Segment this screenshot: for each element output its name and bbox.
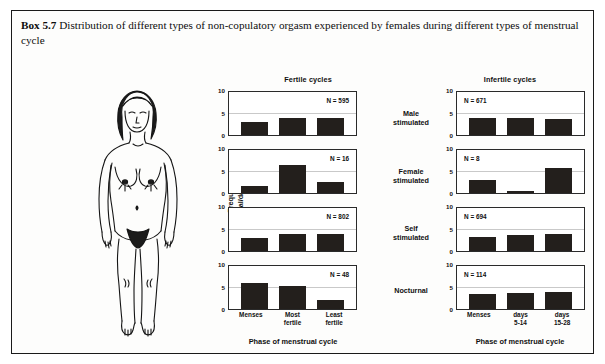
caption-label: Box 5.7 bbox=[21, 19, 56, 31]
row-label-nocturnal: Nocturnal bbox=[380, 286, 442, 295]
x-tick-label: Menses bbox=[233, 311, 269, 319]
y-tick-label: 5 bbox=[442, 169, 453, 175]
caption-text: Distribution of different types of non-c… bbox=[21, 19, 579, 46]
x-tick-label-line: days bbox=[502, 311, 538, 319]
row-label-line2: stimulated bbox=[380, 118, 442, 127]
plot-area: N = 671 bbox=[456, 91, 585, 136]
y-tick-label: 10 bbox=[214, 88, 225, 94]
panel-infertile-nocturnal: N = 1140510 bbox=[442, 265, 585, 310]
y-tick-label: 5 bbox=[214, 169, 225, 175]
row-label-line1: Self bbox=[380, 224, 442, 233]
bar bbox=[545, 234, 572, 251]
row-label-line1: Nocturnal bbox=[380, 286, 442, 295]
plot-area: N = 16 bbox=[228, 149, 357, 194]
x-tick-label-line: days bbox=[544, 311, 580, 319]
bar bbox=[507, 235, 534, 251]
y-tick-label: 5 bbox=[214, 285, 225, 291]
plot-area: N = 802 bbox=[228, 207, 357, 252]
y-tick-label: 10 bbox=[442, 146, 453, 152]
row-label-male-stimulated: Male stimulated bbox=[380, 109, 442, 128]
y-tick-label: 0 bbox=[214, 307, 225, 313]
y-tick-label: 0 bbox=[442, 249, 453, 255]
bar-group bbox=[457, 150, 584, 193]
bar bbox=[545, 119, 572, 135]
panel-infertile-male-stimulated: N = 6710510 bbox=[442, 91, 585, 136]
x-tick-labels-fertile: MensesMostfertileLeastfertile bbox=[228, 311, 357, 335]
bar bbox=[241, 283, 268, 309]
y-tick-label: 10 bbox=[214, 204, 225, 210]
row-label-self-stimulated: Self stimulated bbox=[380, 224, 442, 243]
bar bbox=[507, 293, 534, 309]
column-header-infertile: Infertile cycles bbox=[430, 75, 590, 84]
bar bbox=[241, 186, 268, 193]
panel-infertile-female-stimulated: N = 80510 bbox=[442, 149, 585, 194]
bar bbox=[545, 168, 572, 193]
x-tick-label: Menses bbox=[461, 311, 497, 319]
bar bbox=[279, 118, 306, 135]
plot-area: N = 595 bbox=[228, 91, 357, 136]
plot-area: N = 48 bbox=[228, 265, 357, 310]
x-tick-label-line: 15-28 bbox=[544, 319, 580, 327]
bar bbox=[507, 118, 534, 135]
bar-group bbox=[457, 208, 584, 251]
y-tick-label: 5 bbox=[442, 285, 453, 291]
bar bbox=[507, 191, 534, 193]
y-tick-label: 0 bbox=[214, 249, 225, 255]
y-tick-label: 0 bbox=[214, 191, 225, 197]
plot-area: N = 8 bbox=[456, 149, 585, 194]
panel-fertile-nocturnal: N = 480510 bbox=[214, 265, 357, 310]
y-tick-label: 0 bbox=[442, 191, 453, 197]
row-label-line1: Male bbox=[380, 109, 442, 118]
figure-box: Box 5.7 Distribution of different types … bbox=[11, 10, 594, 354]
x-tick-labels-infertile: Mensesdays5-14days15-28 bbox=[456, 311, 585, 335]
y-tick-label: 5 bbox=[442, 227, 453, 233]
bar bbox=[469, 294, 496, 309]
bar-group bbox=[229, 266, 356, 309]
x-tick-label-line: Least bbox=[316, 311, 352, 319]
y-tick-label: 10 bbox=[214, 146, 225, 152]
y-tick-label: 0 bbox=[442, 133, 453, 139]
x-tick-label: Mostfertile bbox=[274, 311, 310, 327]
y-tick-label: 10 bbox=[442, 88, 453, 94]
bar-group bbox=[229, 92, 356, 135]
bar bbox=[279, 165, 306, 193]
column-header-fertile: Fertile cycles bbox=[228, 75, 388, 84]
bar bbox=[317, 300, 344, 309]
y-tick-label: 0 bbox=[214, 133, 225, 139]
panel-fertile-male-stimulated: N = 5950510 bbox=[214, 91, 357, 136]
panel-fertile-self-stimulated: N = 8020510 bbox=[214, 207, 357, 252]
y-tick-label: 10 bbox=[214, 262, 225, 268]
y-tick-label: 5 bbox=[214, 111, 225, 117]
x-tick-label-line: fertile bbox=[274, 319, 310, 327]
figure-caption: Box 5.7 Distribution of different types … bbox=[21, 18, 581, 47]
panel-fertile-female-stimulated: N = 160510 bbox=[214, 149, 357, 194]
bar bbox=[279, 234, 306, 251]
panel-infertile-self-stimulated: N = 6940510 bbox=[442, 207, 585, 252]
y-tick-label: 0 bbox=[442, 307, 453, 313]
bar-group bbox=[457, 92, 584, 135]
bar bbox=[317, 182, 344, 193]
bar bbox=[241, 122, 268, 135]
bar bbox=[241, 238, 268, 251]
x-tick-label-line: Menses bbox=[461, 311, 497, 319]
x-tick-label-line: fertile bbox=[316, 319, 352, 327]
plot-area: N = 694 bbox=[456, 207, 585, 252]
x-tick-label: Leastfertile bbox=[316, 311, 352, 327]
bar-group bbox=[229, 208, 356, 251]
x-tick-label-line: Menses bbox=[233, 311, 269, 319]
bar bbox=[469, 118, 496, 135]
x-tick-label-line: 5-14 bbox=[502, 319, 538, 327]
plot-area: N = 114 bbox=[456, 265, 585, 310]
bar bbox=[317, 234, 344, 251]
chart-region: Fertile cycles Infertile cycles Frequenc… bbox=[208, 73, 593, 363]
bar-group bbox=[229, 150, 356, 193]
x-tick-label-line: Most bbox=[274, 311, 310, 319]
row-label-female-stimulated: Female stimulated bbox=[380, 167, 442, 186]
x-tick-label: days15-28 bbox=[544, 311, 580, 327]
bar bbox=[469, 237, 496, 251]
x-tick-label: days5-14 bbox=[502, 311, 538, 327]
standing-female-figure-illustration bbox=[67, 89, 207, 344]
row-label-line2: stimulated bbox=[380, 176, 442, 185]
bar bbox=[469, 180, 496, 193]
bar bbox=[279, 286, 306, 309]
